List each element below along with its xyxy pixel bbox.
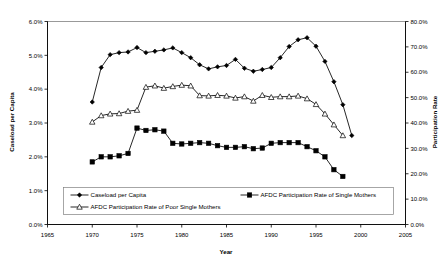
marker-square [189,141,193,145]
chart-text: 1965 [41,232,55,238]
marker-square [242,144,246,148]
chart-text: AFDC Participation Rate of Poor Single M… [91,203,221,210]
marker-square [144,128,148,132]
marker-square [314,149,318,153]
chart-text: 1970 [86,232,100,238]
marker-square [99,155,103,159]
chart-text: 0.0% [411,222,425,228]
legend-item[interactable]: AFDC Participation Rate of Poor Single M… [71,203,221,210]
chart-text: 1980 [175,232,189,238]
marker-square [287,140,291,144]
marker-square [197,140,201,144]
marker-square [269,141,273,145]
line-chart: 196519701975198019851990199520002005 0.0… [0,0,446,262]
marker-square [215,143,219,147]
y-axis-right-title: Participation Rate [431,95,438,148]
chart-text: 70.0% [411,44,429,50]
marker-square [251,147,255,151]
marker-square [233,145,237,149]
chart-background [0,0,446,262]
chart-text: 1975 [130,232,144,238]
chart-text: 10.0% [411,196,429,202]
chart-text: 4.0% [29,86,43,92]
marker-square [117,154,121,158]
chart-text: Caseload per Capita [91,191,147,198]
marker-square [296,140,300,144]
marker-square [278,140,282,144]
chart-text: AFDC Participation Rate of Single Mother… [261,191,377,198]
marker-square [108,155,112,159]
marker-square [180,142,184,146]
marker-square [162,129,166,133]
marker-square [260,146,264,150]
chart-text: 80.0% [411,19,429,25]
chart-text: 20.0% [411,171,429,177]
marker-square [135,126,139,130]
marker-square [332,167,336,171]
x-axis-title: Year [219,248,233,255]
marker-square [90,160,94,164]
chart-text: 5.0% [29,53,43,59]
chart-text: 6.0% [29,19,43,25]
chart-text: 1985 [220,232,234,238]
chart-container: 196519701975198019851990199520002005 0.0… [0,0,446,262]
chart-text: 2005 [399,232,413,238]
marker-square [323,155,327,159]
chart-text: 2.0% [29,154,43,160]
marker-square [305,144,309,148]
marker-square [341,174,345,178]
chart-text: 3.0% [29,120,43,126]
chart-text: 1995 [309,232,323,238]
marker-square [153,128,157,132]
chart-text: 1.0% [29,188,43,194]
legend-item[interactable]: AFDC Participation Rate of Single Mother… [241,191,377,198]
marker-square [247,193,251,197]
chart-text: 50.0% [411,95,429,101]
chart-text: 40.0% [411,120,429,126]
marker-square [206,141,210,145]
y-axis-left-title: Caseload per Capita [8,92,15,152]
chart-text: 60.0% [411,69,429,75]
chart-text: 2000 [354,232,368,238]
chart-text: 30.0% [411,146,429,152]
chart-legend: Caseload per CapitaAFDC Participation Ra… [64,188,394,215]
marker-square [171,141,175,145]
chart-text: 0.0% [29,222,43,228]
marker-square [224,145,228,149]
marker-square [126,151,130,155]
chart-text: 1990 [265,232,279,238]
